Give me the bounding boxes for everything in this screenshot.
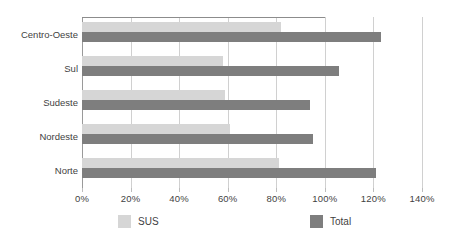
legend-swatch-sus-icon — [118, 215, 131, 228]
chart-legend: SUS Total — [0, 215, 453, 237]
legend-item-sus: SUS — [118, 215, 159, 228]
plot-area — [82, 17, 422, 188]
category-label-sul: Sul — [0, 63, 78, 74]
bar-total-norte — [82, 168, 376, 178]
plot-top-rule — [82, 17, 325, 18]
bar-sus-sudeste — [82, 90, 225, 100]
legend-swatch-total-icon — [310, 215, 323, 228]
category-label-norte: Norte — [0, 165, 78, 176]
bar-total-nordeste — [82, 134, 313, 144]
bar-chart: Centro-Oeste Sul Sudeste Nordeste Norte … — [0, 0, 453, 247]
xtick-80 — [276, 188, 277, 192]
legend-label-sus: SUS — [138, 216, 159, 227]
xtick-0 — [82, 188, 83, 192]
xtick-40 — [179, 188, 180, 192]
xtick-label-140: 140% — [392, 193, 452, 204]
bar-total-sudeste — [82, 100, 310, 110]
bar-total-centro-oeste — [82, 32, 381, 42]
category-label-centro-oeste: Centro-Oeste — [0, 29, 78, 40]
xtick-60 — [228, 188, 229, 192]
category-label-sudeste: Sudeste — [0, 97, 78, 108]
xtick-20 — [131, 188, 132, 192]
xtick-120 — [373, 188, 374, 192]
bar-sus-sul — [82, 56, 223, 66]
bar-sus-centro-oeste — [82, 22, 281, 32]
category-label-nordeste: Nordeste — [0, 131, 78, 142]
bar-sus-norte — [82, 158, 279, 168]
gridline-120 — [373, 17, 374, 188]
gridline-140 — [422, 17, 423, 188]
xtick-100 — [325, 188, 326, 192]
legend-label-total: Total — [330, 216, 351, 227]
bar-total-sul — [82, 66, 339, 76]
category-axis: Centro-Oeste Sul Sudeste Nordeste Norte — [0, 17, 78, 188]
gridline-100 — [325, 17, 326, 188]
xtick-140 — [422, 188, 423, 192]
bar-sus-nordeste — [82, 124, 230, 134]
legend-item-total: Total — [310, 215, 351, 228]
